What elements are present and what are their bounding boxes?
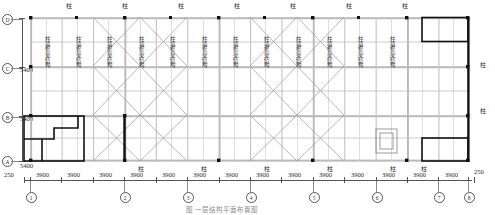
- grid-stem-5: [313, 181, 314, 192]
- bottom-column-marker-1: 柱: [138, 166, 144, 172]
- hdim-tick-7: [219, 177, 220, 183]
- bay-label-7: 柱墙框架结构: [232, 36, 238, 67]
- hdim-value-6: 3900: [193, 172, 206, 179]
- bay-label-11: 柱墙框架结构: [357, 36, 363, 67]
- bay-label-1: 柱墙框架结构: [44, 36, 50, 67]
- hdim-value-right-edge: 250: [474, 169, 484, 176]
- grid-stem-3: [187, 181, 188, 192]
- bold-room-bottom-right: [422, 138, 468, 161]
- bay-label-3: 柱墙框架结构: [106, 36, 112, 67]
- bottom-column-marker-3: 柱: [264, 166, 270, 172]
- hdim-tick-11: [344, 177, 345, 183]
- hdim-tick-16: [474, 177, 475, 183]
- bay-label-4: 柱墙框架结构: [138, 36, 144, 67]
- grid-bubble-7[interactable]: 7: [434, 192, 445, 203]
- grid-stem-1: [30, 181, 31, 192]
- hdim-tick-13: [407, 177, 408, 183]
- hdim-value-11: 3900: [351, 172, 364, 179]
- bold-room-bottom-left: [24, 116, 84, 161]
- grid-bubble-2[interactable]: 2: [120, 192, 131, 203]
- bold-wall-grid2: [123, 116, 125, 162]
- grid-bubble-8[interactable]: 8: [464, 192, 475, 203]
- hdim-value-4: 3900: [130, 172, 143, 179]
- grid-stem-8: [468, 181, 469, 192]
- bottom-column-marker-6: 柱: [421, 166, 427, 172]
- hdim-value-2: 3900: [67, 172, 80, 179]
- hdim-value-10: 3900: [319, 172, 332, 179]
- stair-core-box: [376, 129, 397, 153]
- hdim-value-1: 3900: [36, 172, 49, 179]
- grid-stem-4: [250, 181, 251, 192]
- hdim-tick-9: [281, 177, 282, 183]
- bay-label-6: 柱墙框架结构: [201, 36, 207, 67]
- grid-stem-6: [376, 181, 377, 192]
- bay-label-5: 柱墙框架结构: [169, 36, 175, 67]
- hdim-value-8: 3900: [256, 172, 269, 179]
- grid-bubble-5[interactable]: 5: [309, 192, 320, 203]
- hdim-value-12: 3900: [382, 172, 395, 179]
- hdim-value-14: 3900: [445, 172, 458, 179]
- figure-caption: 图 一层结构平面布置图: [186, 207, 258, 214]
- grid-stem-2: [124, 181, 125, 192]
- plan-geometry: [0, 0, 495, 215]
- hdim-value-5: 3900: [162, 172, 175, 179]
- hdim-tick-2: [61, 177, 62, 183]
- hdim-value-left-edge: 250: [4, 172, 14, 179]
- bay-label-9: 柱墙框架结构: [295, 36, 301, 67]
- bay-label-8: 柱墙框架结构: [263, 36, 269, 67]
- hdim-tick-3: [93, 177, 94, 183]
- vertical-grid-lines: [30, 17, 470, 162]
- bay-label-10: 柱墙框架结构: [326, 36, 332, 67]
- bay-label-2: 柱墙框架结构: [75, 36, 81, 67]
- bold-room-top-right: [422, 18, 468, 42]
- hdim-value-9: 3900: [288, 172, 301, 179]
- grid-bubble-1[interactable]: 1: [26, 192, 37, 203]
- grid-bubble-3[interactable]: 3: [183, 192, 194, 203]
- hdim-value-7: 3900: [225, 172, 238, 179]
- hdim-tick-5: [156, 177, 157, 183]
- hdim-value-3: 3900: [99, 172, 112, 179]
- drawing-canvas: 柱 柱 柱 柱 柱 柱 柱 柱 柱 D C B A 5400 5400 5400: [0, 0, 495, 215]
- bottom-column-marker-5: 柱: [390, 166, 396, 172]
- hdim-value-13: 3900: [413, 172, 426, 179]
- grid-bubble-4[interactable]: 4: [246, 192, 257, 203]
- grid-stem-7: [438, 181, 439, 192]
- hdim-tick-0: [24, 177, 25, 183]
- column-nodes: [29, 16, 469, 162]
- bottom-column-marker-4: 柱: [327, 166, 333, 172]
- grid-bubble-6[interactable]: 6: [372, 192, 383, 203]
- horizontal-dim-line: [24, 180, 472, 181]
- bold-wall-right-edge: [467, 17, 469, 162]
- bottom-column-marker-2: 柱: [201, 166, 207, 172]
- bay-label-12: 柱墙框架结构: [389, 36, 395, 67]
